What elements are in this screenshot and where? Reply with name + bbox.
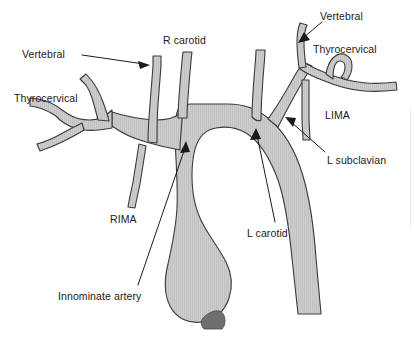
label-lima: LIMA [325, 110, 350, 121]
right-thyrocervical-branch [37, 123, 84, 151]
label-rima: RIMA [110, 214, 137, 225]
label-innominate-artery: Innominate artery [58, 291, 141, 302]
aorta-main-body [165, 104, 321, 322]
right-thyrocervical [80, 74, 109, 121]
label-vertebral-right: Vertebral [22, 49, 65, 60]
leader-vertebral-right [82, 55, 144, 64]
label-l-subclavian: L subclavian [327, 155, 386, 166]
lima-vessel [302, 80, 310, 140]
label-vertebral-left: Vertebral [320, 11, 363, 22]
label-r-carotid: R carotid [163, 35, 206, 46]
rima-vessel [128, 144, 146, 208]
innominate-trunk [112, 106, 183, 150]
left-vertebral [297, 23, 307, 68]
left-thyrocervical [326, 54, 352, 80]
label-thyrocervical-left: Thyrocervical [313, 44, 377, 55]
aortic-arch-diagram: Vertebral R carotid Thyrocervical RIMA I… [0, 0, 414, 347]
label-l-carotid: L carotid [247, 228, 288, 239]
scan-artifact-line [410, 108, 411, 228]
label-thyrocervical-right: Thyrocervical [14, 93, 78, 104]
left-carotid [252, 50, 265, 121]
arrowhead-vertebral-right [138, 61, 150, 69]
